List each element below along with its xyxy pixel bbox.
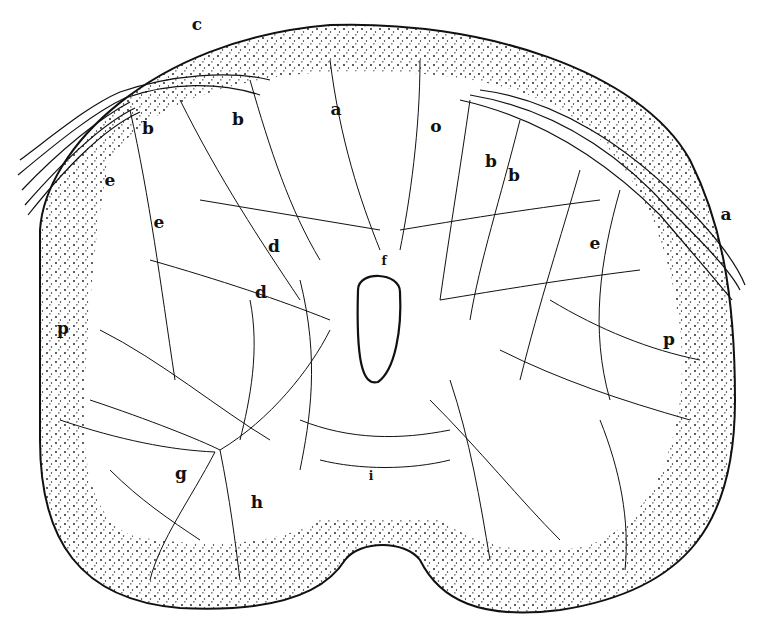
label-p: p <box>663 331 675 348</box>
label-g: g <box>175 465 187 482</box>
label-e: e <box>590 235 601 252</box>
section-drawing <box>0 0 772 624</box>
label-e: e <box>105 172 116 189</box>
label-d: d <box>255 284 267 301</box>
label-d: d <box>268 238 280 255</box>
label-e: e <box>154 214 165 231</box>
label-c: c <box>192 16 202 33</box>
label-i: i <box>369 470 374 482</box>
label-h: h <box>251 494 263 511</box>
label-f: f <box>381 255 386 267</box>
label-o: o <box>430 118 441 135</box>
label-p: p <box>57 320 69 337</box>
label-a: a <box>330 101 341 118</box>
spinal-cord-section-figure: c b b a o b b a e e e d d f p p g h i <box>0 0 772 624</box>
label-b: b <box>508 167 520 184</box>
label-a: a <box>720 206 731 223</box>
central-canal <box>358 276 401 382</box>
label-b: b <box>232 111 244 128</box>
label-b: b <box>485 153 497 170</box>
label-b: b <box>142 120 154 137</box>
